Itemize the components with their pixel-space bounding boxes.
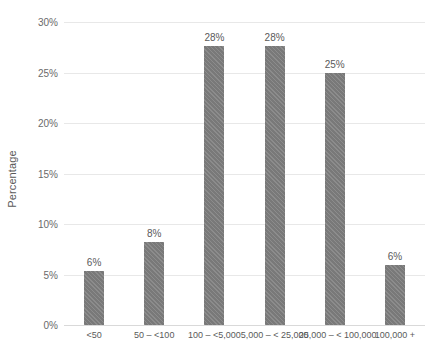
y-tick-label: 0% — [44, 320, 58, 331]
bar-value-label: 6% — [388, 251, 402, 262]
bar[interactable] — [385, 265, 405, 325]
y-tick-label: 10% — [38, 219, 58, 230]
bar[interactable] — [204, 46, 224, 325]
plot-area: 0%5%10%15%20%25%30%6%8%28%28%25%6% — [64, 22, 425, 325]
y-tick-label: 5% — [44, 269, 58, 280]
y-tick-label: 15% — [38, 168, 58, 179]
x-tick-label: 100,000 + — [359, 330, 431, 340]
bar-value-label: 28% — [204, 32, 224, 43]
bar-group: 6% — [64, 22, 124, 325]
bar-group: 25% — [305, 22, 365, 325]
bar[interactable] — [325, 73, 345, 326]
gridline-0% — [64, 325, 425, 326]
bar-chart: Percentage 0%5%10%15%20%25%30%6%8%28%28%… — [0, 0, 437, 357]
y-tick-label: 30% — [38, 17, 58, 28]
bar[interactable] — [84, 271, 104, 325]
bar-value-label: 28% — [265, 32, 285, 43]
x-axis-labels: <5050 – <100100 – <5,0005,000 – < 25,000… — [64, 330, 425, 350]
bar[interactable] — [265, 46, 285, 325]
bar-group: 6% — [365, 22, 425, 325]
bar-group: 8% — [124, 22, 184, 325]
bar-value-label: 8% — [147, 228, 161, 239]
bar[interactable] — [144, 242, 164, 325]
bar-value-label: 6% — [87, 257, 101, 268]
y-axis-title: Percentage — [0, 0, 24, 357]
bar-group: 28% — [184, 22, 244, 325]
y-tick-label: 25% — [38, 67, 58, 78]
y-axis-title-label: Percentage — [6, 150, 18, 207]
y-tick-label: 20% — [38, 118, 58, 129]
bar-group: 28% — [245, 22, 305, 325]
bar-value-label: 25% — [325, 59, 345, 70]
